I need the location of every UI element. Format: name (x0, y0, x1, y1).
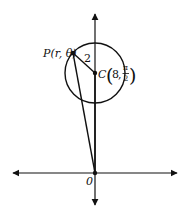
point-c (93, 71, 97, 75)
label-p: P(r, θ) (42, 47, 77, 60)
label-radius: 2 (84, 52, 91, 65)
paren-right: ) (129, 64, 136, 86)
segment-op (73, 53, 95, 173)
comma: , (118, 68, 122, 81)
polar-diagram: P(r, θ) 2 C ( 8 , π 2 ) 0 (0, 0, 189, 217)
label-c-theta-num: π (123, 63, 128, 72)
label-c-theta-den: 2 (124, 74, 129, 83)
label-c: C ( 8 , π 2 ) (98, 63, 136, 86)
label-origin: 0 (86, 175, 93, 188)
point-origin (93, 171, 97, 175)
